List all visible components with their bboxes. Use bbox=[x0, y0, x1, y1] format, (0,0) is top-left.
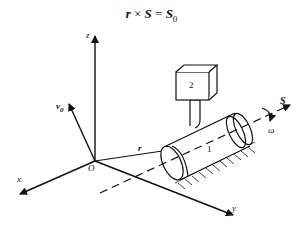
z-axis-label: z bbox=[86, 30, 90, 40]
r-label: r bbox=[138, 143, 142, 153]
block-2 bbox=[176, 65, 217, 128]
origin-label: O bbox=[88, 163, 95, 173]
y-axis-label: y bbox=[232, 203, 236, 213]
s-label: S bbox=[280, 95, 286, 106]
y-axis bbox=[95, 161, 233, 215]
body-2-label: 2 bbox=[189, 80, 194, 90]
x-axis-label: x bbox=[17, 174, 21, 184]
v0-label: v0 bbox=[56, 101, 64, 114]
omega-label: ω bbox=[268, 125, 274, 135]
x-axis bbox=[20, 161, 95, 194]
v0-vector bbox=[69, 104, 95, 161]
body-1-label: 1 bbox=[207, 144, 212, 154]
kinematics-diagram bbox=[0, 0, 303, 229]
